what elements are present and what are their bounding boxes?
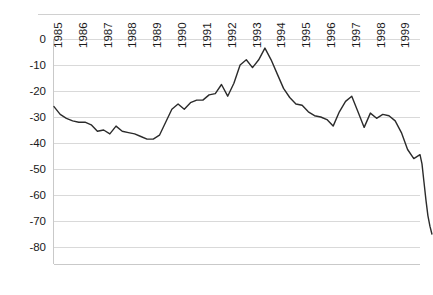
x-tick-label: 1991 — [201, 22, 213, 48]
x-tick-label: 1996 — [325, 22, 337, 48]
y-tick-label: -60 — [29, 189, 46, 201]
x-tick-label: 1992 — [226, 22, 238, 48]
x-tick-label: 1998 — [375, 22, 387, 48]
y-tick-label: -20 — [29, 85, 46, 97]
x-tick-label: 1995 — [300, 22, 312, 48]
x-tick-label: 1997 — [350, 22, 362, 48]
y-tick-label: -30 — [29, 111, 46, 123]
y-tick-label: -50 — [29, 163, 46, 175]
x-tick-label: 1987 — [102, 22, 114, 48]
line-chart: 0-10-20-30-40-50-60-70-80 19851986198719… — [0, 0, 433, 295]
x-tick-label: 1993 — [251, 22, 263, 48]
x-tick-label: 1990 — [176, 22, 188, 48]
x-axis-labels: 1985198619871988198919901991199219931994… — [52, 22, 411, 48]
x-tick-label: 1985 — [52, 22, 64, 48]
x-tick-label: 1989 — [151, 22, 163, 48]
y-tick-label: 0 — [40, 33, 46, 45]
data-series-line — [54, 48, 432, 234]
x-tick-label: 1994 — [275, 22, 287, 48]
x-tick-label: 1986 — [77, 22, 89, 48]
x-tick-label: 1999 — [399, 22, 411, 48]
x-tick-label: 1988 — [126, 22, 138, 48]
y-tick-label: -10 — [29, 59, 46, 71]
y-tick-label: -80 — [29, 241, 46, 253]
chart-container: 0-10-20-30-40-50-60-70-80 19851986198719… — [0, 0, 433, 295]
y-tick-label: -70 — [29, 215, 46, 227]
y-tick-label: -40 — [29, 137, 46, 149]
y-axis: 0-10-20-30-40-50-60-70-80 — [29, 33, 420, 253]
